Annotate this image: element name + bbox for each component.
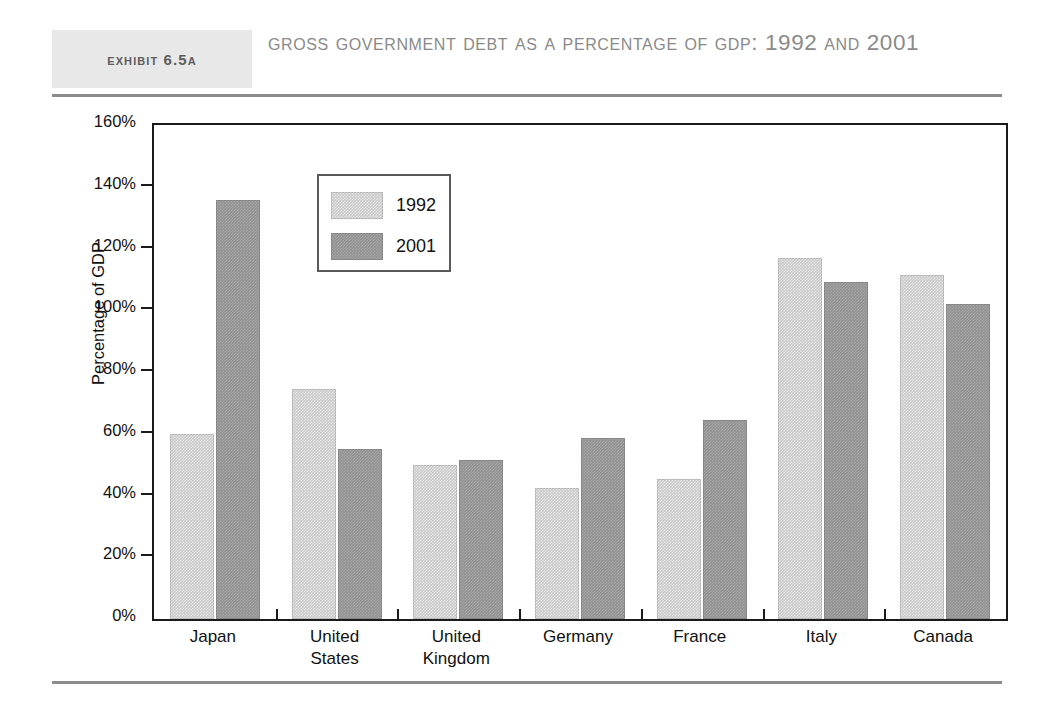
bar-group bbox=[763, 125, 885, 619]
bar-1992 bbox=[170, 434, 214, 619]
y-tick-label: 100% bbox=[94, 297, 136, 316]
bar-2001 bbox=[581, 438, 625, 619]
y-tick-mark bbox=[141, 184, 152, 186]
y-tick-mark bbox=[141, 493, 152, 495]
x-tick-label: Italy bbox=[761, 626, 883, 648]
x-tick-label: Canada bbox=[882, 626, 1004, 648]
bar-1992 bbox=[413, 465, 457, 619]
bar-2001 bbox=[216, 200, 260, 619]
bar-2001 bbox=[338, 449, 382, 619]
bar-group bbox=[884, 125, 1006, 619]
chart-legend: 19922001 bbox=[317, 174, 451, 272]
bar-group bbox=[641, 125, 763, 619]
x-tick-mark bbox=[276, 609, 278, 620]
y-tick-mark bbox=[141, 307, 152, 309]
y-tick-mark bbox=[141, 246, 152, 248]
exhibit-badge: Exhibit 6.5A bbox=[52, 30, 252, 88]
x-tick-mark bbox=[763, 609, 765, 620]
footer-divider bbox=[52, 681, 1002, 684]
bar-1992 bbox=[778, 258, 822, 619]
y-tick-mark bbox=[141, 369, 152, 371]
bar-2001 bbox=[459, 460, 503, 619]
x-tick-label: Germany bbox=[517, 626, 639, 648]
y-tick-label: 40% bbox=[103, 483, 136, 502]
legend-swatch-1992 bbox=[331, 192, 383, 219]
x-tick-label: France bbox=[639, 626, 761, 648]
exhibit-header: Exhibit 6.5A Gross Government Debt as a … bbox=[52, 30, 1002, 92]
legend-label-2001: 2001 bbox=[396, 236, 436, 257]
header-divider bbox=[52, 94, 1002, 97]
bar-group bbox=[519, 125, 641, 619]
bar-1992 bbox=[535, 488, 579, 619]
x-tick-label: United States bbox=[274, 626, 396, 670]
y-tick-label: 120% bbox=[94, 236, 136, 255]
bar-1992 bbox=[292, 389, 336, 619]
x-tick-mark bbox=[884, 609, 886, 620]
y-tick-mark bbox=[141, 431, 152, 433]
bar-group bbox=[154, 125, 276, 619]
y-tick-label: 80% bbox=[103, 359, 136, 378]
x-tick-mark bbox=[397, 609, 399, 620]
legend-label-1992: 1992 bbox=[396, 195, 436, 216]
legend-item-2001: 2001 bbox=[331, 231, 436, 261]
y-tick-label: 160% bbox=[94, 112, 136, 131]
bar-chart: Percentage of GDP 0%20%40%60%80%100%120%… bbox=[52, 108, 1002, 663]
legend-item-1992: 1992 bbox=[331, 190, 436, 220]
exhibit-title: Gross Government Debt as a Percentage of… bbox=[268, 28, 1008, 58]
x-tick-label: Japan bbox=[152, 626, 274, 648]
y-tick-label: 20% bbox=[103, 544, 136, 563]
bar-1992 bbox=[900, 275, 944, 619]
y-tick-label: 140% bbox=[94, 174, 136, 193]
bars-layer bbox=[154, 125, 1006, 619]
exhibit-number-label: Exhibit 6.5A bbox=[107, 51, 197, 68]
y-tick-label: 0% bbox=[112, 606, 136, 625]
x-tick-mark bbox=[641, 609, 643, 620]
x-tick-mark bbox=[519, 609, 521, 620]
bar-2001 bbox=[824, 282, 868, 619]
legend-swatch-2001 bbox=[331, 233, 383, 260]
bar-2001 bbox=[946, 304, 990, 619]
bar-1992 bbox=[657, 479, 701, 619]
y-tick-mark bbox=[141, 554, 152, 556]
x-tick-label: United Kingdom bbox=[395, 626, 517, 670]
bar-2001 bbox=[703, 420, 747, 619]
y-tick-label: 60% bbox=[103, 421, 136, 440]
